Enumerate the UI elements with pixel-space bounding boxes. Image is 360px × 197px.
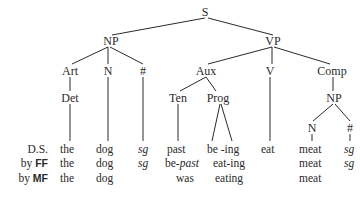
cell: sg — [344, 157, 354, 169]
cell: be-past — [165, 157, 199, 169]
cell: meat — [299, 172, 321, 184]
node-ten: Ten — [169, 92, 187, 104]
cell: the — [60, 157, 74, 169]
node-n2: N — [308, 122, 317, 134]
cell: eat — [261, 143, 274, 155]
node-n: N — [104, 65, 113, 77]
cell: sg — [344, 143, 354, 155]
node-prog: Prog — [207, 92, 230, 104]
row-label-bold: MF — [33, 172, 48, 184]
row-label-ff: by FF — [0, 157, 48, 169]
cell: eat-ing — [213, 157, 245, 169]
node-np2: NP — [326, 92, 341, 104]
cell: past — [167, 143, 186, 155]
node-np: NP — [103, 35, 118, 47]
row-label-prefix: by — [18, 172, 30, 184]
cell: meat — [299, 143, 321, 155]
cell-part-italic: past — [180, 157, 199, 169]
row-label-text: D.S. — [28, 143, 48, 155]
cell: meat — [299, 157, 321, 169]
node-det: Det — [61, 92, 78, 104]
cell: sg — [138, 157, 148, 169]
node-hash: # — [140, 65, 146, 77]
row-label-prefix: by — [21, 157, 33, 169]
node-comp: Comp — [317, 65, 346, 77]
cell: the — [60, 172, 74, 184]
cell: was — [176, 172, 194, 184]
cell: be -ing — [207, 143, 239, 155]
node-vp: VP — [265, 35, 280, 47]
cell: the — [60, 143, 74, 155]
node-v: V — [266, 65, 275, 77]
cell: dog — [96, 172, 113, 184]
cell: dog — [96, 143, 113, 155]
node-aux: Aux — [196, 65, 217, 77]
row-label-ds: D.S. — [0, 143, 48, 155]
node-art: Art — [62, 65, 78, 77]
syntax-tree-diagram: S NP VP Art N # Aux V Comp Det Ten Prog … — [0, 0, 360, 197]
cell: eating — [215, 172, 243, 184]
node-hash2: # — [347, 122, 353, 134]
cell: sg — [138, 143, 148, 155]
cell-part: be- — [165, 157, 180, 169]
row-label-mf: by MF — [0, 172, 48, 184]
row-label-bold: FF — [35, 157, 48, 169]
cell: dog — [96, 157, 113, 169]
node-s: S — [202, 6, 209, 18]
